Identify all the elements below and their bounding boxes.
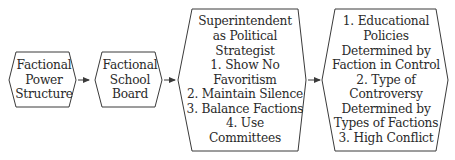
node-line: 2. Maintain Silence xyxy=(187,87,303,102)
node-line: Determined by xyxy=(341,102,430,117)
node-line: Controversy xyxy=(349,87,422,102)
node-line: School xyxy=(110,73,150,88)
node-line: 1. Educational xyxy=(343,14,430,29)
node-line: Determined by xyxy=(341,44,430,59)
node-line: Board xyxy=(112,87,148,102)
node-line: 3. Balance Factions xyxy=(187,102,304,117)
node-line: Structure xyxy=(15,87,73,102)
node-factional-power-structure: Factional Power Structure xyxy=(14,53,74,107)
node-line: Power xyxy=(25,73,63,88)
node-factional-school-board: Factional School Board xyxy=(100,53,160,107)
node-line: 4. Use xyxy=(226,116,264,131)
node-line: Faction in Control xyxy=(332,58,440,73)
node-line: Factional xyxy=(16,58,71,73)
node-outcomes: 1. Educational Policies Determined by Fa… xyxy=(330,10,442,150)
node-line: Superintendent xyxy=(198,14,292,29)
node-line: 1. Show No xyxy=(210,58,279,73)
node-line: Policies xyxy=(363,29,408,44)
node-line: Favoritism xyxy=(213,73,276,88)
node-line: 3. High Conflict xyxy=(339,131,434,146)
node-line: as Political xyxy=(213,29,278,44)
node-line: 2. Type of xyxy=(356,73,415,88)
node-line: Committees xyxy=(209,131,281,146)
node-line: Strategist xyxy=(215,44,274,59)
node-line: Factional xyxy=(102,58,157,73)
node-line: Types of Factions xyxy=(334,116,438,131)
node-superintendent-political-strategist: Superintendent as Political Strategist 1… xyxy=(186,10,304,150)
